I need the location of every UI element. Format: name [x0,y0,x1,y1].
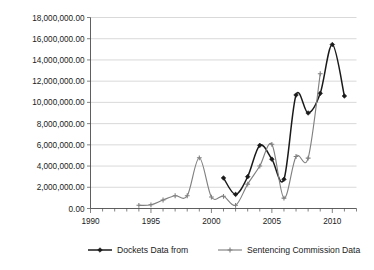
legend-swatch-marker [228,248,233,253]
series-line [139,74,320,206]
data-series-group [136,42,346,207]
data-point-marker [161,198,166,203]
x-axis-tick-label: 2010 [323,217,342,226]
data-point-marker [306,156,311,161]
x-axis-tick-label: 2005 [263,217,282,226]
x-axis-tick-labels: 19901995200020052010 [81,217,341,226]
x-axis [91,209,357,214]
data-point-marker [173,193,178,198]
y-axis-tick-labels: 0.002,000,000.004,000,000.006,000,000.00… [32,14,85,214]
data-series [221,42,347,196]
x-axis-tick-label: 1990 [81,217,100,226]
legend-label: Dockets Data from [117,245,188,255]
x-axis-tick-label: 1995 [142,217,161,226]
y-axis-tick-label: 12,000,000.00 [32,77,85,86]
data-point-marker [318,91,323,96]
legend-item: Sentencing Commission Data [218,245,360,255]
legend-swatch-marker [98,248,103,253]
data-point-marker [136,203,141,208]
series-line [224,45,345,195]
y-axis-tick-label: 4,000,000.00 [37,162,85,171]
legend-item: Dockets Data from [88,245,188,255]
y-axis-tick-label: 16,000,000.00 [32,35,85,44]
y-axis-tick-label: 18,000,000.00 [32,14,85,23]
y-axis-tick-label: 6,000,000.00 [37,141,85,150]
chart-legend: Dockets Data fromSentencing Commission D… [88,245,360,255]
y-axis-tick-label: 10,000,000.00 [32,98,85,107]
y-axis [87,18,91,209]
legend-label: Sentencing Commission Data [247,245,360,255]
data-point-marker [269,142,274,147]
y-axis-tick-label: 8,000,000.00 [37,120,85,129]
y-axis-tick-label: 14,000,000.00 [32,56,85,65]
data-point-marker [318,71,323,76]
line-chart: 0.002,000,000.004,000,000.006,000,000.00… [0,0,374,270]
x-axis-tick-label: 2000 [202,217,221,226]
y-axis-tick-label: 2,000,000.00 [37,183,85,192]
data-point-marker [149,202,154,207]
data-point-marker [342,94,347,99]
y-axis-tick-label: 0.00 [69,205,85,214]
data-point-marker [233,192,238,197]
chart-container: 0.002,000,000.004,000,000.006,000,000.00… [0,0,374,270]
